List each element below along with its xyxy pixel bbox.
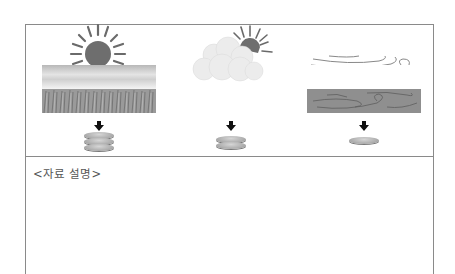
- down-arrow-icon: [93, 121, 105, 131]
- description-label: <자료 설명>: [33, 165, 101, 181]
- grain-disc: [349, 137, 379, 144]
- grain-disc: [216, 142, 246, 149]
- panel-sunny: [42, 25, 156, 155]
- down-arrow-icon: [225, 121, 237, 131]
- bare-soil-field: [307, 89, 421, 113]
- grain-pile-large: [84, 133, 114, 151]
- grain-disc: [84, 144, 114, 151]
- grain-pile-small: [349, 138, 379, 144]
- panel-cloudy: [174, 25, 288, 155]
- panel-windy: [307, 25, 421, 155]
- sun-behind-cloud-icon: [174, 25, 288, 95]
- worksheet-frame: <자료 설명>: [25, 24, 434, 274]
- dense-wheat-field: [42, 89, 156, 113]
- scene-windy: [307, 65, 421, 113]
- scene-sunny: [42, 65, 156, 113]
- grain-pile-medium: [216, 137, 246, 149]
- sky: [42, 65, 156, 89]
- section-divider: [26, 156, 433, 157]
- down-arrow-icon: [358, 121, 370, 131]
